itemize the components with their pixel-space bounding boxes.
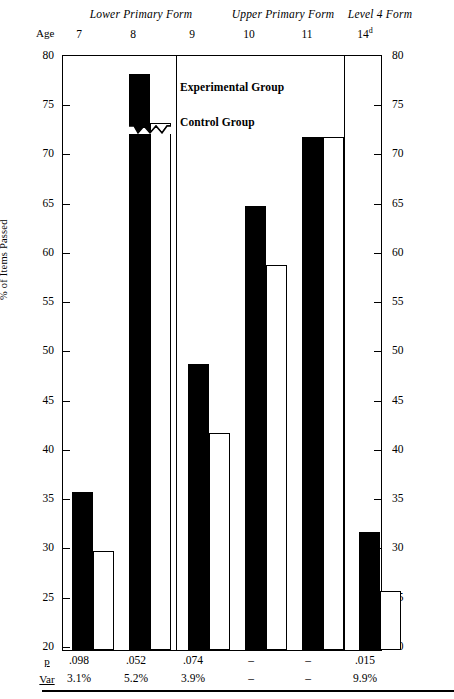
stats-p-age-7: .098 <box>56 654 102 666</box>
stats-var-age-10: – <box>228 672 274 684</box>
y-tick-label-left-75: 75 <box>28 98 54 110</box>
stats-var-age-14: 9.9% <box>342 672 388 684</box>
y-tick-right-45 <box>374 401 381 402</box>
y-tick-label-left-45: 45 <box>28 394 54 406</box>
y-tick-left-60 <box>63 253 70 254</box>
y-tick-label-right-30: 30 <box>392 541 418 553</box>
y-tick-right-55 <box>374 302 381 303</box>
stats-p-age-10: – <box>228 654 274 666</box>
y-tick-right-35 <box>374 499 381 500</box>
stats-var-age-11: – <box>285 672 331 684</box>
y-tick-label-left-40: 40 <box>28 443 54 455</box>
y-tick-label-left-60: 60 <box>28 246 54 258</box>
y-tick-label-left-25: 25 <box>28 591 54 603</box>
axis-break-zigzag-age-8 <box>129 125 171 134</box>
y-axis-title: % of Items Passed <box>0 219 9 300</box>
y-tick-left-20 <box>63 647 70 648</box>
age-tick-14: 14d <box>350 26 380 40</box>
y-tick-label-right-60: 60 <box>392 246 418 258</box>
bar-experimental-age-14 <box>359 532 380 650</box>
y-tick-label-left-80: 80 <box>28 49 54 61</box>
section-divider-lower-upper <box>176 56 177 650</box>
age-tick-7: 7 <box>64 26 94 40</box>
y-tick-label-left-65: 65 <box>28 197 54 209</box>
bar-control-age-10 <box>266 265 287 650</box>
y-tick-label-right-80: 80 <box>392 49 418 61</box>
y-tick-right-65 <box>374 204 381 205</box>
y-tick-right-40 <box>374 450 381 451</box>
bar-control-age-8 <box>150 123 171 650</box>
y-tick-right-70 <box>374 154 381 155</box>
stats-p-age-11: – <box>285 654 331 666</box>
stats-p-age-9: .074 <box>170 654 216 666</box>
y-tick-left-50 <box>63 351 70 352</box>
bottom-rule <box>42 690 454 692</box>
bar-control-age-11 <box>323 137 344 650</box>
y-tick-label-left-35: 35 <box>28 492 54 504</box>
bar-experimental-age-8 <box>129 74 150 650</box>
y-tick-label-left-50: 50 <box>28 344 54 356</box>
bar-control-age-7 <box>93 551 114 650</box>
bar-experimental-age-11 <box>302 137 323 650</box>
y-tick-label-right-70: 70 <box>392 147 418 159</box>
stats-p-age-8: .052 <box>113 654 159 666</box>
y-tick-left-30 <box>63 548 70 549</box>
y-tick-left-25 <box>63 598 70 599</box>
y-tick-left-55 <box>63 302 70 303</box>
bar-experimental-age-10 <box>245 206 266 650</box>
y-tick-label-right-65: 65 <box>392 197 418 209</box>
age-tick-10: 10 <box>234 26 264 40</box>
y-tick-right-75 <box>374 105 381 106</box>
bar-chart-figure: Lower Primary Form Upper Primary Form Le… <box>0 0 454 699</box>
age-tick-11: 11 <box>292 26 322 40</box>
bar-experimental-age-7 <box>72 492 93 650</box>
bar-control-age-14 <box>380 591 401 650</box>
y-tick-right-50 <box>374 351 381 352</box>
group-header-level-4: Level 4 Form <box>315 8 445 20</box>
y-tick-label-right-45: 45 <box>392 394 418 406</box>
legend-label-control: Control Group <box>180 116 255 128</box>
section-divider-upper-level4 <box>344 56 345 650</box>
y-tick-label-right-40: 40 <box>392 443 418 455</box>
y-tick-label-right-35: 35 <box>392 492 418 504</box>
y-tick-left-45 <box>63 401 70 402</box>
y-tick-left-35 <box>63 499 70 500</box>
stats-p-age-14: .015 <box>342 654 388 666</box>
y-tick-label-left-20: 20 <box>28 640 54 652</box>
y-tick-right-60 <box>374 253 381 254</box>
y-tick-label-left-30: 30 <box>28 541 54 553</box>
age-axis-label: Age <box>36 27 54 39</box>
y-tick-left-65 <box>63 204 70 205</box>
y-tick-left-70 <box>63 154 70 155</box>
plot-area: Experimental Group Control Group <box>62 55 382 651</box>
stats-var-age-7: 3.1% <box>56 672 102 684</box>
bar-experimental-age-9 <box>188 364 209 650</box>
stats-var-age-8: 5.2% <box>113 672 159 684</box>
y-tick-label-right-75: 75 <box>392 98 418 110</box>
y-tick-label-right-50: 50 <box>392 344 418 356</box>
legend-label-experimental: Experimental Group <box>180 81 284 93</box>
y-tick-label-left-70: 70 <box>28 147 54 159</box>
y-tick-left-75 <box>63 105 70 106</box>
y-tick-label-right-55: 55 <box>392 295 418 307</box>
bar-control-age-9 <box>209 433 230 650</box>
y-tick-left-40 <box>63 450 70 451</box>
age-tick-9: 9 <box>177 26 207 40</box>
y-tick-label-left-55: 55 <box>28 295 54 307</box>
age-tick-8: 8 <box>118 26 148 40</box>
stats-var-age-9: 3.9% <box>170 672 216 684</box>
